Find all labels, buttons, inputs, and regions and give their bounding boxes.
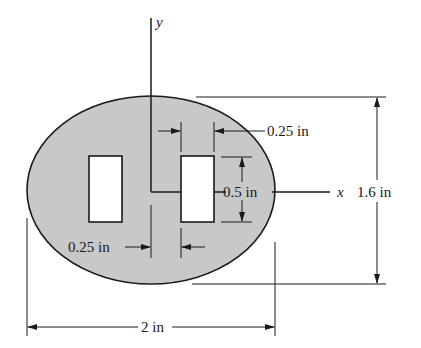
right-hole: [181, 156, 214, 222]
x-axis-label: x: [336, 184, 344, 200]
hole-spacing-label: 0.25 in: [68, 239, 110, 255]
diagram-canvas: y x 0.25 in 0.5 in 0.25 in 1.6 in 2 in: [0, 0, 421, 348]
overall-width-label: 2 in: [141, 319, 164, 335]
hole-width-label: 0.25 in: [267, 123, 309, 139]
hole-height-label: 0.5 in: [223, 184, 258, 200]
left-hole: [89, 156, 122, 222]
overall-height-label: 1.6 in: [357, 184, 392, 200]
y-axis-label: y: [154, 14, 163, 30]
